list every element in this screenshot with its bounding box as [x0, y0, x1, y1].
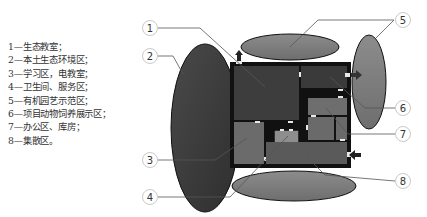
callout-7: 7 [396, 127, 411, 142]
room-7-office-c [336, 117, 347, 140]
room-7-office-a [308, 98, 347, 115]
callout-4: 4 [143, 190, 158, 205]
room-3-study-area [234, 122, 264, 164]
room-6-animal-display [301, 66, 347, 88]
svg-text:8: 8 [400, 176, 406, 187]
svg-text:6: 6 [400, 103, 406, 114]
svg-text:1: 1 [147, 23, 153, 34]
ellipse-zone-2 [171, 44, 239, 212]
callout-2: 2 [143, 49, 158, 64]
svg-text:2: 2 [147, 51, 153, 62]
svg-text:7: 7 [400, 129, 406, 140]
arrow-up-icon [235, 50, 243, 61]
callout-6: 6 [396, 101, 411, 116]
floor-plan-diagram: 1 2 3 4 5 6 7 8 [0, 0, 427, 217]
callout-1: 1 [143, 21, 158, 36]
callout-8: 8 [396, 174, 411, 189]
callout-3: 3 [143, 153, 158, 168]
svg-text:3: 3 [147, 155, 153, 166]
callout-5: 5 [396, 13, 411, 28]
ellipse-zone-5-right [352, 35, 386, 129]
svg-text:5: 5 [400, 15, 406, 26]
room-7-office-b [308, 117, 334, 140]
room-1-eco-classroom [234, 66, 299, 120]
svg-text:4: 4 [147, 192, 153, 203]
room-8-upper [300, 142, 347, 146]
